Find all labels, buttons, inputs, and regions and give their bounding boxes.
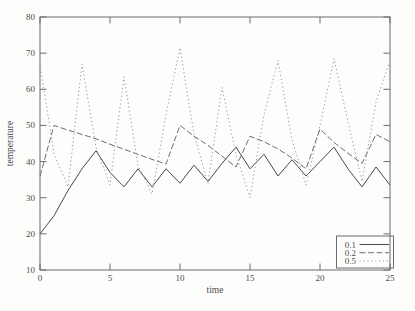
y-tick-label: 80: [26, 12, 36, 22]
temperature-time-line-chart: 05101520251020304050607080timetemperatur…: [0, 0, 415, 311]
x-tick-label: 15: [246, 273, 256, 283]
x-axis-ticks: 0510152025: [38, 17, 395, 283]
y-axis-label: temperature: [5, 121, 15, 166]
x-axis-label: time: [207, 285, 224, 295]
y-tick-label: 60: [26, 84, 36, 94]
x-tick-label: 0: [38, 273, 43, 283]
y-tick-label: 50: [26, 120, 36, 130]
x-tick-label: 10: [176, 273, 186, 283]
y-tick-label: 30: [26, 193, 36, 203]
chart-figure: 05101520251020304050607080timetemperatur…: [0, 0, 415, 311]
x-tick-label: 20: [316, 273, 326, 283]
x-tick-label: 5: [108, 273, 113, 283]
plot-border: [40, 17, 390, 270]
y-tick-label: 70: [26, 48, 36, 58]
legend-entry-label: 0.5: [345, 256, 357, 266]
series-line-0.1: [40, 147, 390, 234]
y-tick-label: 10: [26, 265, 36, 275]
y-tick-label: 40: [26, 157, 36, 167]
series-line-0.5: [40, 48, 390, 198]
legend: 0.10.20.5: [337, 236, 394, 268]
x-tick-label: 25: [386, 273, 396, 283]
y-tick-label: 20: [26, 229, 36, 239]
